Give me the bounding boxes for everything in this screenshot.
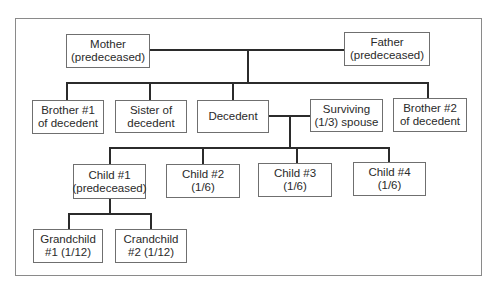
node-child-4: Child #4 (1/6) bbox=[353, 162, 426, 196]
node-label: Sister of bbox=[130, 104, 172, 117]
node-label: Father bbox=[370, 36, 403, 49]
node-sublabel: #2 (1/12) bbox=[128, 246, 174, 259]
node-label: Surviving bbox=[323, 103, 370, 116]
node-label: Child #4 bbox=[368, 166, 410, 179]
node-decedent: Decedent bbox=[197, 100, 269, 133]
children-line bbox=[109, 147, 390, 149]
node-sublabel: #1 (1/12) bbox=[45, 246, 91, 259]
node-child-2: Child #2 (1/6) bbox=[166, 164, 240, 198]
grandchild1-drop bbox=[68, 213, 70, 229]
node-sublabel: of decedent bbox=[38, 117, 98, 130]
node-child-3: Child #3 (1/6) bbox=[258, 163, 332, 197]
child4-drop bbox=[388, 147, 390, 163]
node-sublabel: (1/3) spouse bbox=[315, 116, 379, 129]
node-grandchild-1: Grandchild #1 (1/12) bbox=[33, 229, 103, 263]
node-sublabel: (1/6) bbox=[191, 181, 215, 194]
node-brother-1: Brother #1 of decedent bbox=[32, 100, 104, 134]
child1-drop bbox=[109, 147, 111, 164]
node-sublabel: (predeceased) bbox=[72, 182, 146, 195]
node-label: Child #2 bbox=[182, 168, 224, 181]
parents-drop-line bbox=[247, 49, 249, 83]
node-sublabel: of decedent bbox=[400, 115, 460, 128]
node-father: Father (predeceased) bbox=[344, 32, 430, 66]
node-label: Brother #1 bbox=[41, 104, 95, 117]
child3-drop bbox=[296, 147, 298, 163]
node-sublabel: (1/6) bbox=[378, 179, 402, 192]
node-brother-2: Brother #2 of decedent bbox=[393, 98, 467, 132]
node-label: Decedent bbox=[208, 110, 257, 123]
node-surviving-spouse: Surviving (1/3) spouse bbox=[310, 99, 383, 132]
node-label: Brother #2 bbox=[403, 102, 457, 115]
node-grandchild-2: Crandchild #2 (1/12) bbox=[115, 229, 187, 263]
child2-drop bbox=[202, 147, 204, 164]
decedent-drop bbox=[232, 82, 234, 100]
sister-drop bbox=[149, 82, 151, 100]
node-label: Child #3 bbox=[274, 167, 316, 180]
node-sublabel: (predeceased) bbox=[350, 49, 424, 62]
children-drop-line bbox=[289, 115, 291, 149]
grandchildren-line bbox=[68, 213, 152, 215]
node-sublabel: (1/6) bbox=[283, 180, 307, 193]
node-child-1: Child #1 (predeceased) bbox=[73, 164, 146, 199]
siblings-line bbox=[66, 82, 429, 84]
node-label: Child #1 bbox=[88, 169, 130, 182]
brother1-drop bbox=[66, 82, 68, 100]
node-mother: Mother (predeceased) bbox=[66, 34, 150, 68]
node-label: Mother bbox=[90, 38, 126, 51]
node-sublabel: (predeceased) bbox=[71, 51, 145, 64]
grandchild2-drop bbox=[150, 213, 152, 229]
node-sublabel: decedent bbox=[127, 117, 174, 130]
node-sister: Sister of decedent bbox=[115, 100, 187, 133]
node-label: Grandchild bbox=[40, 233, 96, 246]
node-label: Crandchild bbox=[124, 233, 179, 246]
